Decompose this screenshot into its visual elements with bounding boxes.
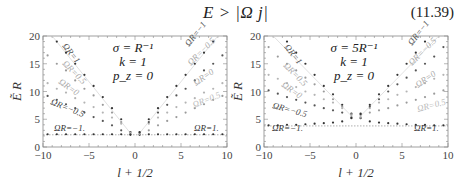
series-label: ΩR=1.: [194, 123, 219, 133]
data-point: [304, 63, 306, 65]
data-point: [56, 88, 58, 90]
data-point: [166, 96, 168, 98]
data-point: [212, 63, 214, 65]
x-tick-label: −5: [83, 149, 95, 161]
data-point: [74, 133, 76, 135]
data-point: [332, 98, 334, 100]
data-point: [350, 117, 352, 119]
data-point: [120, 129, 122, 131]
data-point: [47, 95, 49, 97]
data-point: [102, 120, 104, 122]
y-tick-label: 15: [29, 58, 41, 70]
data-point: [194, 133, 196, 135]
data-point: [102, 133, 104, 135]
data-point: [148, 133, 150, 135]
parameter-label: p_z = 0: [333, 68, 374, 83]
data-point: [314, 94, 316, 96]
data-point: [111, 124, 113, 126]
data-point: [304, 90, 306, 92]
data-point: [442, 74, 444, 76]
data-point: [221, 95, 223, 97]
data-point: [93, 85, 95, 87]
series-label: ΩR=0.5: [191, 89, 222, 109]
data-point: [175, 85, 177, 87]
data-point: [378, 102, 380, 104]
plot-panel-1: −10−5051005101520l + 1/2Ẽ RΩR=1ΩR=0.5ΩR=…: [9, 19, 233, 180]
data-point: [406, 63, 408, 65]
data-point: [120, 133, 122, 135]
parameter-label: σ = 5R⁻¹: [331, 40, 378, 55]
data-point: [212, 88, 214, 90]
x-tick-label: 10: [443, 149, 455, 161]
data-point: [314, 123, 316, 125]
y-tick-label: 10: [250, 86, 262, 98]
data-point: [387, 107, 389, 109]
x-tick-label: 5: [399, 149, 405, 161]
data-point: [148, 118, 150, 120]
data-point: [102, 104, 104, 106]
data-point: [378, 121, 380, 123]
data-point: [442, 89, 444, 91]
data-point: [93, 106, 95, 108]
data-point: [433, 55, 435, 57]
data-point: [93, 133, 95, 135]
y-tick-label: 5: [256, 113, 262, 125]
parameter-label: k = 1: [340, 54, 368, 69]
data-point: [341, 111, 343, 113]
data-point: [157, 133, 159, 135]
x-axis-label: l + 1/2: [338, 165, 374, 180]
data-point: [415, 69, 417, 71]
data-point: [323, 122, 325, 124]
data-point: [332, 102, 334, 104]
data-point: [120, 118, 122, 120]
data-point: [323, 98, 325, 100]
data-point: [83, 133, 85, 135]
data-point: [332, 121, 334, 123]
data-point: [221, 133, 223, 135]
series-label: ΩR=0.5: [416, 97, 447, 114]
data-point: [47, 54, 49, 56]
data-point: [323, 90, 325, 92]
data-point: [277, 93, 279, 95]
data-point: [65, 92, 67, 94]
x-tick-label: 5: [178, 149, 184, 161]
data-point: [442, 124, 444, 126]
data-point: [148, 121, 150, 123]
data-point: [47, 133, 49, 135]
data-point: [387, 90, 389, 92]
data-point: [148, 129, 150, 131]
data-point: [286, 96, 288, 98]
data-point: [166, 133, 168, 135]
data-point: [406, 102, 408, 104]
parameter-label: k = 1: [119, 54, 147, 69]
data-point: [314, 74, 316, 76]
x-tick-label: 0: [132, 149, 138, 161]
data-point: [360, 113, 362, 115]
data-point: [304, 102, 306, 104]
data-point: [93, 94, 95, 96]
x-tick-label: −5: [304, 149, 316, 161]
data-point: [47, 82, 49, 84]
data-point: [175, 106, 177, 108]
data-point: [424, 63, 426, 65]
parameter-label: σ = R⁻¹: [113, 40, 153, 55]
y-tick-label: 0: [256, 141, 262, 153]
data-point: [415, 99, 417, 101]
data-point: [314, 104, 316, 106]
data-point: [221, 82, 223, 84]
series-label: ΩR=1.: [414, 123, 439, 133]
data-point: [83, 102, 85, 104]
data-point: [185, 88, 187, 90]
data-point: [111, 107, 113, 109]
data-point: [406, 90, 408, 92]
data-point: [424, 96, 426, 98]
data-point: [332, 93, 334, 95]
data-point: [111, 116, 113, 118]
data-point: [203, 133, 205, 135]
data-point: [286, 40, 288, 42]
data-point: [277, 78, 279, 80]
series-label: ΩR=−0.5: [271, 100, 308, 119]
y-tick-label: 20: [29, 30, 41, 42]
data-point: [157, 124, 159, 126]
data-point: [56, 133, 58, 135]
